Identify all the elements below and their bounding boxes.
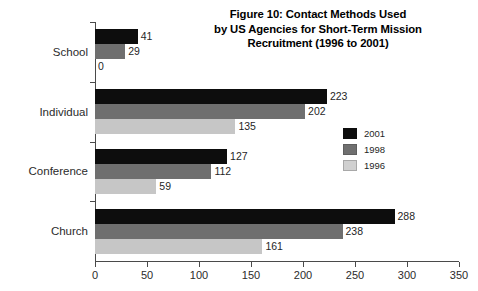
x-tick-mark <box>407 262 408 267</box>
chart-title: Figure 10: Contact Methods Used by US Ag… <box>200 7 436 51</box>
x-tick-mark <box>199 262 200 267</box>
x-tick-label: 0 <box>75 269 115 281</box>
bar-individual-1996 <box>95 119 235 134</box>
legend-label-1996: 1996 <box>364 159 385 172</box>
category-label-church: Church <box>2 225 88 237</box>
x-tick-label: 50 <box>127 269 167 281</box>
bar-conference-1996 <box>95 179 156 194</box>
x-tick-mark <box>459 262 460 267</box>
bar-value-school-1998: 29 <box>125 44 140 59</box>
category-label-school: School <box>2 46 88 58</box>
bar-church-1996 <box>95 239 262 254</box>
legend-swatch-2001 <box>343 128 357 139</box>
bar-school-1998 <box>95 44 125 59</box>
x-tick-mark <box>303 262 304 267</box>
category-axis-labels: SchoolIndividualConferenceChurch <box>0 0 88 291</box>
x-tick-label: 300 <box>387 269 427 281</box>
bar-church-1998 <box>95 224 343 239</box>
bar-conference-2001 <box>95 149 227 164</box>
bar-value-conference-2001: 127 <box>227 149 248 164</box>
bar-value-church-1998: 238 <box>343 224 364 239</box>
chart-title-line-3: Recruitment (1996 to 2001) <box>200 36 436 51</box>
x-tick-label: 350 <box>439 269 478 281</box>
chart-title-line-2: by US Agencies for Short-Term Mission <box>200 22 436 37</box>
y-tick-mark <box>90 142 95 143</box>
x-tick-mark <box>147 262 148 267</box>
bar-church-2001 <box>95 209 395 224</box>
x-tick-label: 250 <box>335 269 375 281</box>
bar-value-church-2001: 288 <box>395 209 416 224</box>
category-label-individual: Individual <box>2 106 88 118</box>
legend-item-1998: 1998 <box>343 143 413 157</box>
y-tick-mark <box>90 82 95 83</box>
legend-label-2001: 2001 <box>364 127 385 140</box>
bar-individual-1998 <box>95 104 305 119</box>
x-tick-label: 200 <box>283 269 323 281</box>
bar-value-individual-1996: 135 <box>235 119 256 134</box>
bar-school-2001 <box>95 29 138 44</box>
x-axis-line <box>95 261 459 262</box>
y-tick-mark <box>90 22 95 23</box>
legend-item-1996: 1996 <box>343 159 413 173</box>
bar-value-conference-1996: 59 <box>156 179 171 194</box>
legend-label-1998: 1998 <box>364 143 385 156</box>
x-tick-label: 100 <box>179 269 219 281</box>
bar-value-conference-1998: 112 <box>211 164 231 179</box>
figure-bar-chart: Figure 10: Contact Methods Used by US Ag… <box>0 0 478 291</box>
category-label-conference: Conference <box>2 165 88 177</box>
chart-title-line-1: Figure 10: Contact Methods Used <box>200 7 436 22</box>
x-tick-mark <box>251 262 252 267</box>
legend: 200119981996 <box>343 127 413 175</box>
bar-value-church-1996: 161 <box>262 239 283 254</box>
x-tick-label: 150 <box>231 269 271 281</box>
y-tick-mark <box>90 201 95 202</box>
bar-value-school-2001: 41 <box>138 29 153 44</box>
bar-individual-2001 <box>95 89 327 104</box>
bar-value-individual-2001: 223 <box>327 89 348 104</box>
legend-swatch-1996 <box>343 160 357 171</box>
legend-swatch-1998 <box>343 144 357 155</box>
x-tick-mark <box>355 262 356 267</box>
bar-value-school-1996: 0 <box>95 59 104 74</box>
legend-item-2001: 2001 <box>343 127 413 141</box>
x-tick-mark <box>95 262 96 267</box>
bar-value-individual-1998: 202 <box>305 104 326 119</box>
bar-conference-1998 <box>95 164 211 179</box>
